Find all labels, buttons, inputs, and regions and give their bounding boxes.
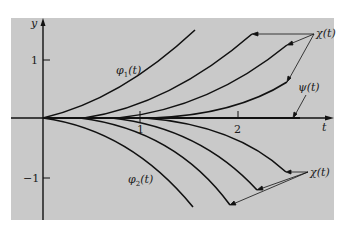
phi2-label: φ2(t): [128, 173, 153, 188]
y-tick-label-1: 1: [31, 54, 38, 67]
psi-label: ψ(t): [298, 81, 320, 94]
chi-label-upper: χ(t): [315, 27, 336, 40]
phi1-label: φ1(t): [116, 64, 141, 79]
t-axis-label: t: [322, 121, 327, 134]
t-tick-label-2: 2: [234, 123, 241, 136]
chi-label-lower: χ(t): [309, 166, 330, 179]
solution-curves-figure: y 1 −1 t 1 2 φ1(t) φ2(t) χ(t) χ(t) ψ(t): [0, 0, 352, 230]
y-axis-label: y: [30, 17, 38, 30]
y-tick-label-minus-1: −1: [23, 172, 39, 185]
